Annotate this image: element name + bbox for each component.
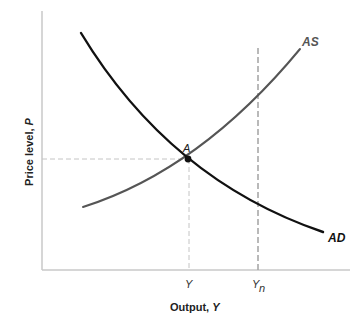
x-axis-title-text: Output, [170,301,212,313]
y-axis-title-text: Price level, [23,125,35,186]
ad-as-diagram: A AS AD Y Y n Output, Y Price level, P [0,0,354,327]
x-axis-title: Output, Y [170,301,221,313]
as-curve [83,49,300,207]
x-tick-yn: Y n [252,278,265,294]
equilibrium-point [185,156,192,163]
y-axis-title-var: P [23,117,35,125]
equilibrium-label: A [182,142,190,154]
x-tick-yn-subscript: n [259,282,265,294]
as-label: AS [301,35,319,49]
ad-label: AD [327,231,346,245]
y-axis-title: Price level, P [23,117,35,186]
x-axis-title-var: Y [212,301,221,313]
x-tick-y: Y [185,278,193,290]
ad-curve [81,33,323,232]
